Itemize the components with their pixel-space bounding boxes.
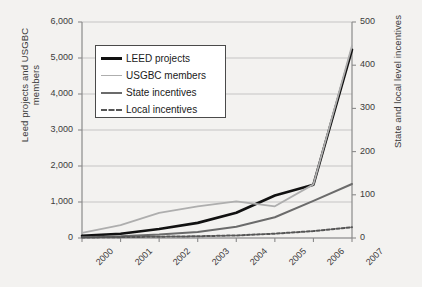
y-axis-right-title: State and local level incentives [392,7,403,157]
y-tick-label-left: 4,000 [33,88,73,98]
y-tick-label-left: 3,000 [33,124,73,134]
legend-swatch-usgbc-members [101,75,122,76]
legend-item-state-incentives: State incentives [101,84,225,101]
series-line [82,184,352,237]
chart-figure: Leed projects and USGBC members State an… [0,0,422,287]
y-tick-label-right: 300 [360,102,400,112]
legend-label-state-incentives: State incentives [126,87,197,98]
y-tick-label-left: 6,000 [33,16,73,26]
legend-label-leed-projects: LEED projects [126,53,190,64]
y-tick-label-left: 0 [33,232,73,242]
y-tick-label-left: 2,000 [33,160,73,170]
legend-item-local-incentives: Local incentives [101,101,225,118]
plot-area [0,0,422,287]
y-tick-label-right: 500 [360,16,400,26]
legend-item-leed-projects: LEED projects [101,50,225,67]
y-tick-label-right: 100 [360,189,400,199]
y-tick-label-right: 200 [360,146,400,156]
y-axis-left-title: Leed projects and USGBC members [19,10,41,160]
legend-swatch-local-incentives [101,109,122,111]
legend-swatch-state-incentives [101,92,122,94]
chart-legend: LEED projects USGBC members State incent… [95,45,226,118]
y-tick-label-left: 5,000 [33,52,73,62]
legend-label-usgbc-members: USGBC members [126,70,206,81]
legend-label-local-incentives: Local incentives [126,104,197,115]
y-tick-label-right: 400 [360,59,400,69]
legend-swatch-leed-projects [101,57,122,60]
legend-item-usgbc-members: USGBC members [101,67,225,84]
y-tick-label-left: 1,000 [33,196,73,206]
y-tick-label-right: 0 [360,232,400,242]
